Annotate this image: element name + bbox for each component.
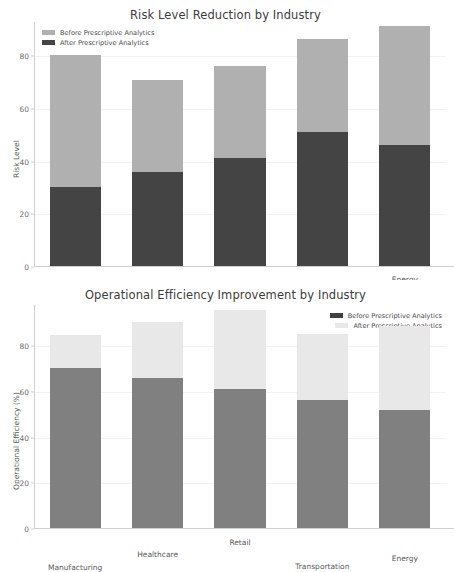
bar-segment[interactable] [214, 158, 265, 266]
chart-title-risk-level: Risk Level Reduction by Industry [0, 8, 451, 22]
x-tick-label: Energy [392, 554, 418, 563]
bar-group[interactable]: Transportation [297, 39, 348, 266]
legend-swatch-after-icon [42, 40, 55, 45]
y-tick-label: 80 [19, 52, 34, 61]
x-tick-label: Retail [229, 538, 250, 547]
bar-group[interactable]: Manufacturing [50, 335, 101, 528]
bar-segment[interactable] [297, 132, 348, 266]
bar-segment[interactable] [132, 172, 183, 266]
y-tick-label: 60 [19, 104, 34, 113]
y-tick-label: 40 [19, 433, 34, 442]
bar-group[interactable]: Manufacturing [50, 55, 101, 266]
bar-segment[interactable] [214, 389, 265, 528]
legend-label-before: Before Prescriptive Analytics [348, 312, 442, 320]
bar-segment[interactable] [132, 378, 183, 528]
y-tick-label: 20 [19, 479, 34, 488]
legend-swatch-before-icon [42, 30, 55, 35]
y-tick-label: 0 [24, 525, 34, 534]
legend-item-after: After Prescriptive Analytics [42, 38, 154, 47]
x-tick-label: Manufacturing [48, 563, 102, 572]
bar-group[interactable]: Energy [379, 26, 430, 266]
chart-title-op-efficiency: Operational Efficiency Improvement by In… [0, 288, 451, 302]
chart-risk-level-reduction: Risk Level Reduction by Industry Risk Le… [0, 0, 451, 280]
y-tick-label: 0 [24, 263, 34, 272]
legend-risk-level: Before Prescriptive Analytics After Pres… [42, 28, 154, 48]
x-tick-label: Healthcare [137, 550, 178, 559]
bar-segment[interactable] [50, 368, 101, 528]
bar-group[interactable]: Retail [214, 66, 265, 266]
y-tick-label: 60 [19, 387, 34, 396]
chart-operational-efficiency: Operational Efficiency Improvement by In… [0, 280, 451, 560]
bar-group[interactable]: Energy [379, 326, 430, 528]
legend-label-after: After Prescriptive Analytics [60, 39, 149, 47]
legend-item-before: Before Prescriptive Analytics [42, 28, 154, 37]
bar-segment[interactable] [379, 410, 430, 528]
legend-swatch-after-icon [335, 323, 348, 328]
bar-group[interactable]: Healthcare [132, 322, 183, 528]
y-tick-label: 40 [19, 157, 34, 166]
x-axis-line [34, 528, 454, 529]
y-axis-line [34, 22, 35, 267]
y-axis-line [34, 305, 35, 529]
y-tick-label: 20 [19, 210, 34, 219]
bar-group[interactable]: Transportation [297, 334, 348, 528]
x-tick-label: Transportation [295, 562, 349, 571]
x-axis-line [34, 266, 454, 267]
bar-group[interactable]: Retail [214, 310, 265, 528]
bar-segment[interactable] [297, 400, 348, 528]
bar-segment[interactable] [379, 145, 430, 266]
legend-item-before: Before Prescriptive Analytics [330, 311, 442, 320]
bar-group[interactable]: Healthcare [132, 80, 183, 266]
y-tick-label: 80 [19, 342, 34, 351]
legend-label-before: Before Prescriptive Analytics [60, 29, 154, 37]
legend-swatch-before-icon [330, 313, 343, 318]
bar-segment[interactable] [50, 187, 101, 266]
